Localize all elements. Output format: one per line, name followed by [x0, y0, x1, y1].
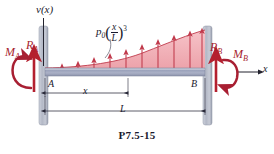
beam — [45, 68, 205, 76]
figure-caption: P7.5-15 — [0, 129, 274, 141]
node-label-B: B — [191, 79, 197, 89]
dimension-label-x: x — [83, 86, 87, 96]
moment-MA-label: MA — [5, 46, 20, 62]
dimension-label-L: L — [120, 104, 126, 114]
node-label-A: A — [48, 79, 54, 89]
reaction-RB-label: RB — [210, 41, 222, 57]
moment-MB-label: MB — [233, 48, 248, 64]
x-axis-label: x — [263, 64, 267, 74]
reaction-moment-MB-arrow — [223, 60, 237, 88]
reaction-RA-label: RA — [26, 39, 38, 55]
beam-problem-figure: v(x) MA RA RB MB p0(xL)3 A B x L x P7.5-… — [0, 0, 274, 154]
load-function-label: p0(xL)3 — [96, 22, 127, 43]
deflection-axis-label: v(x) — [36, 4, 53, 15]
